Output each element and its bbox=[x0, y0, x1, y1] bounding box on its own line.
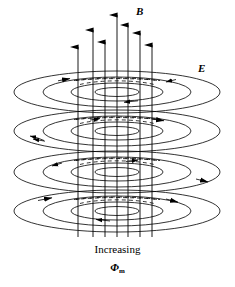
caption-magnetic-flux-symbol: Φm bbox=[0, 261, 235, 275]
caption-increasing: Increasing bbox=[0, 243, 235, 255]
flux-subscript: m bbox=[119, 267, 125, 275]
magnetic-field-label: B bbox=[136, 5, 143, 17]
electric-field-label: E bbox=[198, 62, 205, 74]
physics-diagram-induced-electric-field: B E Increasing Φm bbox=[0, 0, 235, 287]
flux-symbol: Φ bbox=[110, 261, 119, 273]
